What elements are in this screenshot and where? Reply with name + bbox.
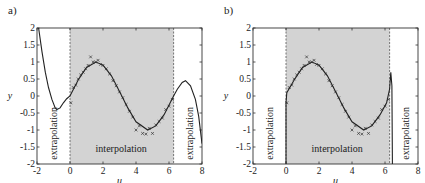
x-tick-label: 6 <box>383 166 388 176</box>
interpolation-label: interpolation <box>312 143 363 154</box>
x-tick-label: 0 <box>68 166 73 176</box>
x-tick-label: 2 <box>317 166 322 176</box>
chart-a: -20246821.510.50-0.5-1-1.5-2uyextrapolat… <box>0 0 212 183</box>
y-tick-label: 1 <box>246 57 251 67</box>
y-tick-label: -0.5 <box>236 108 251 118</box>
chart-b: -20246821.510.50-0.5-1-1.5-2uyextrapolat… <box>216 0 425 183</box>
right-extrapolation-label: extrapolation <box>400 107 411 160</box>
y-axis-title: y <box>223 90 229 101</box>
interpolation-label: interpolation <box>96 143 147 154</box>
x-axis-title: u <box>117 175 122 183</box>
panel-b: b) -20246821.510.50-0.5-1-1.5-2uyextrapo… <box>216 0 425 183</box>
y-tick-label: 0 <box>246 91 251 101</box>
y-axis-title: y <box>7 90 13 101</box>
y-tick-label: -1.5 <box>236 142 251 152</box>
y-tick-label: 1 <box>30 57 35 67</box>
y-tick-label: 2 <box>246 23 251 33</box>
x-tick-label: 8 <box>416 166 421 176</box>
x-tick-label: 8 <box>200 166 205 176</box>
y-tick-label: -0.5 <box>20 108 35 118</box>
y-tick-label: -1 <box>243 125 251 135</box>
y-tick-label: -2 <box>27 159 35 169</box>
y-tick-label: 0.5 <box>23 74 35 84</box>
x-axis-title: u <box>333 175 338 183</box>
y-tick-label: -2 <box>243 159 251 169</box>
x-tick-label: 0 <box>284 166 289 176</box>
y-tick-label: 0.5 <box>239 74 251 84</box>
x-tick-label: 4 <box>134 166 139 176</box>
left-extrapolation-label: extrapolation <box>48 107 59 160</box>
y-tick-label: 1.5 <box>239 40 251 50</box>
x-tick-label: 6 <box>167 166 172 176</box>
left-extrapolation-label: extrapolation <box>264 107 275 160</box>
y-tick-label: -1.5 <box>20 142 35 152</box>
y-tick-label: 2 <box>30 23 35 33</box>
y-tick-label: -1 <box>27 125 35 135</box>
right-extrapolation-label: extrapolation <box>184 107 195 160</box>
x-tick-label: 2 <box>101 166 106 176</box>
x-tick-label: 4 <box>350 166 355 176</box>
y-tick-label: 1.5 <box>23 40 35 50</box>
panel-a: a) -20246821.510.50-0.5-1-1.5-2uyextrapo… <box>0 0 212 183</box>
y-tick-label: 0 <box>30 91 35 101</box>
